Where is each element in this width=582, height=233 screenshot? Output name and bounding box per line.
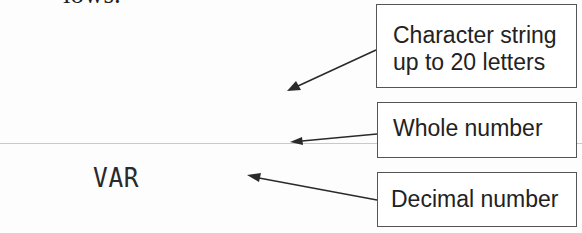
code-keyword: VAR [93, 162, 226, 194]
callout-integer: Whole number [377, 102, 577, 158]
textbook-page: lows. VAR NAME:STRING[20]; AGE:INTEGER; … [0, 0, 582, 233]
code-line-name: NAME:STRING[20]; [1, 226, 424, 233]
callout-text: Whole number [393, 115, 576, 142]
callout-text: Decimal number [391, 186, 576, 213]
code-line-var: VAR [1, 130, 424, 162]
prose-fragment: lows. [63, 0, 121, 8]
callout-text: Character string [393, 22, 576, 49]
code-listing: VAR NAME:STRING[20]; AGE:INTEGER; AVERAG… [1, 66, 424, 233]
callout-real: Decimal number [377, 172, 577, 227]
callout-string: Character string up to 20 letters [376, 4, 577, 88]
callout-text: up to 20 letters [393, 49, 576, 76]
